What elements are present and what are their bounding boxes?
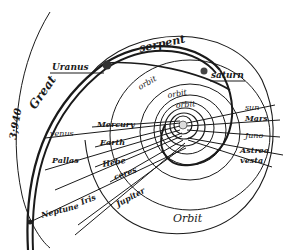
- label-mercury: Mercury: [96, 119, 136, 129]
- label-uranus: Uranus: [52, 62, 89, 72]
- label-orbit-mid1: orbit: [167, 88, 189, 100]
- saturn-node-icon: [201, 68, 208, 75]
- label-orbit-mid2: orbit: [175, 99, 196, 110]
- serpent-orbit-diagram: Uranus serpent saturn Great 3;940 orbit …: [0, 0, 287, 250]
- label-hebe: Hebe: [101, 155, 127, 169]
- label-neptune: Neptune: [39, 200, 80, 220]
- uranus-node-icon: [103, 61, 112, 70]
- label-iris: Iris: [78, 192, 98, 208]
- label-venus: venus: [50, 129, 74, 138]
- label-great: Great: [26, 73, 59, 112]
- label-pallas: Pallas: [51, 155, 79, 165]
- label-astrea: Astrea: [239, 145, 269, 155]
- label-earth: Earth: [99, 137, 125, 147]
- label-saturn: saturn: [211, 70, 244, 80]
- sun-icon: [179, 121, 187, 129]
- diagram-canvas: Uranus serpent saturn Great 3;940 orbit …: [0, 0, 287, 250]
- label-orbit-bottom: Orbit: [173, 212, 203, 225]
- label-year: 3;940: [7, 107, 23, 140]
- right-label-rays: [187, 105, 283, 167]
- label-sun: sun: [245, 103, 259, 112]
- label-vesta: vesta: [240, 155, 263, 165]
- label-mars: Mars: [244, 113, 268, 123]
- label-juno: Juno: [243, 131, 264, 140]
